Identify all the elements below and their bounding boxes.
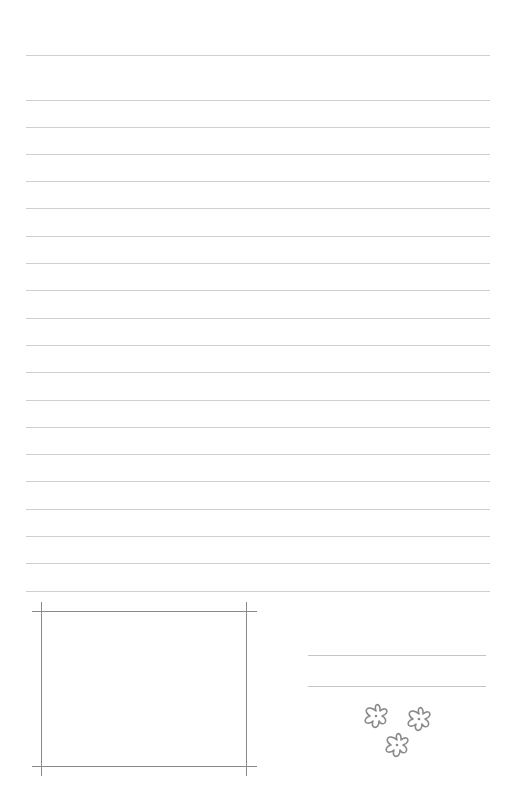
ruled-line: [26, 372, 490, 373]
signature-line-1: [308, 655, 486, 656]
ruled-line: [26, 318, 490, 319]
ruled-line: [26, 563, 490, 564]
ruled-line: [26, 154, 490, 155]
ruled-line: [26, 509, 490, 510]
flower-icon: [386, 734, 408, 757]
frame-left-line: [41, 602, 42, 776]
frame-right-line: [246, 602, 247, 776]
ruled-line: [26, 208, 490, 209]
ruled-line: [26, 263, 490, 264]
ruled-line: [26, 454, 490, 455]
ruled-line: [26, 290, 490, 291]
ruled-line: [26, 181, 490, 182]
ruled-line: [26, 591, 490, 592]
ruled-line: [26, 236, 490, 237]
letter-page: [0, 0, 517, 812]
ruled-line: [26, 400, 490, 401]
ruled-line: [26, 427, 490, 428]
flower-icon: [365, 705, 387, 728]
ruled-line: [26, 536, 490, 537]
ruled-line: [26, 55, 490, 56]
frame-bottom-line: [32, 766, 257, 767]
ruled-line: [26, 127, 490, 128]
flowers-decoration-icon: [355, 698, 445, 768]
signature-line-2: [308, 686, 486, 687]
ruled-line: [26, 481, 490, 482]
flower-icon: [408, 708, 430, 731]
ruled-line: [26, 345, 490, 346]
ruled-line: [26, 100, 490, 101]
frame-top-line: [32, 611, 257, 612]
